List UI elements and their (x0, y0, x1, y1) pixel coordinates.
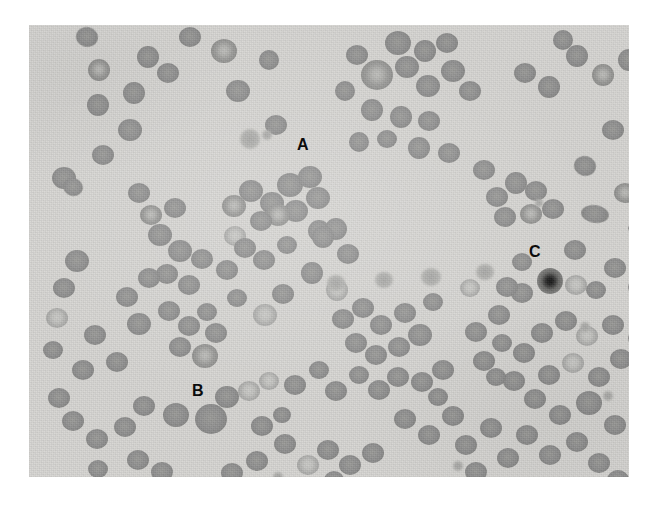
red-blood-cell (151, 462, 173, 477)
red-blood-cell (191, 249, 213, 269)
red-blood-cell (158, 301, 180, 321)
blood-smear-micrograph: ABC (29, 25, 629, 477)
red-blood-cell (377, 130, 397, 148)
red-blood-cell (317, 440, 339, 460)
red-blood-cell (88, 460, 108, 477)
red-blood-cell (253, 304, 277, 326)
red-blood-cell (234, 238, 256, 258)
red-blood-cell (346, 45, 368, 65)
red-blood-cell (339, 455, 361, 475)
plate-label-c: C (529, 244, 541, 260)
red-blood-cell (535, 199, 543, 207)
red-blood-cell (628, 220, 629, 236)
red-blood-cell (324, 471, 344, 477)
red-blood-cell (327, 275, 345, 291)
red-blood-cell (566, 432, 588, 452)
red-blood-cell (140, 205, 162, 225)
red-blood-cell (74, 25, 100, 49)
red-blood-cell (222, 195, 246, 217)
red-blood-cell (603, 391, 613, 401)
red-blood-cell (618, 49, 629, 71)
red-blood-cell (195, 404, 227, 434)
red-blood-cell (387, 367, 409, 387)
red-blood-cell (251, 416, 273, 436)
red-blood-cell (62, 411, 84, 431)
red-blood-cell (250, 211, 272, 231)
red-blood-cell (531, 323, 553, 343)
red-blood-cell (480, 418, 502, 438)
red-blood-cell (349, 132, 369, 152)
red-blood-cell (309, 361, 329, 379)
red-blood-cell (349, 366, 369, 384)
red-blood-cell (473, 160, 495, 180)
red-blood-cell (580, 322, 590, 332)
red-blood-cell (486, 368, 506, 386)
red-blood-cell (588, 453, 610, 473)
red-blood-cell (361, 99, 383, 121)
red-blood-cell (432, 360, 454, 380)
red-blood-cell (418, 425, 440, 445)
red-blood-cell (272, 284, 294, 304)
red-blood-cell (178, 316, 200, 336)
plate-label-a: A (297, 137, 309, 153)
red-blood-cell (352, 298, 374, 318)
red-blood-cell (408, 324, 432, 346)
red-blood-cell (362, 443, 384, 463)
red-blood-cell (238, 381, 260, 401)
red-blood-cell (607, 470, 629, 477)
red-blood-cell (226, 80, 250, 102)
red-blood-cell (562, 353, 584, 373)
red-blood-cell (505, 172, 527, 194)
red-blood-cell (86, 429, 108, 449)
red-blood-cell (127, 313, 151, 335)
red-blood-cell (205, 323, 227, 343)
red-blood-cell (628, 277, 629, 297)
red-blood-cell (442, 406, 464, 426)
red-blood-cell (572, 154, 598, 179)
red-blood-cell (516, 425, 538, 445)
red-blood-cell (488, 305, 510, 325)
red-blood-cell (408, 137, 430, 159)
red-blood-cell (465, 462, 487, 477)
red-blood-cell (614, 183, 629, 203)
red-blood-cell (84, 325, 106, 345)
red-blood-cell (539, 445, 561, 465)
red-blood-cell (123, 82, 145, 104)
red-blood-cell (335, 81, 355, 101)
red-blood-cell (476, 264, 494, 280)
nucleated-dark-cell (537, 268, 563, 294)
plate-label-b: B (192, 383, 204, 399)
red-blood-cell (274, 434, 296, 454)
red-blood-cell (513, 343, 535, 363)
red-blood-cell (370, 315, 392, 335)
red-blood-cell (416, 75, 440, 97)
red-blood-cell (602, 315, 624, 335)
red-blood-cell (211, 39, 237, 63)
red-blood-cell (297, 455, 319, 475)
red-blood-cell (92, 145, 114, 165)
red-blood-cell (492, 334, 512, 352)
red-blood-cell (337, 244, 359, 264)
red-blood-cell (106, 352, 128, 372)
red-blood-cell (227, 289, 247, 307)
red-blood-cell (418, 111, 440, 131)
red-blood-cell (298, 166, 322, 188)
red-blood-cell (46, 308, 68, 328)
red-blood-cell (262, 130, 272, 140)
red-blood-cell (240, 129, 260, 149)
red-blood-cell (565, 275, 587, 295)
red-blood-cell (455, 435, 477, 455)
red-blood-cell (459, 81, 481, 101)
red-blood-cell (137, 46, 159, 68)
red-blood-cell (497, 448, 519, 468)
red-blood-cell (259, 50, 279, 70)
red-blood-cell (460, 279, 480, 297)
red-blood-cell (192, 344, 218, 368)
red-blood-cell (72, 360, 94, 380)
red-blood-cell (53, 278, 75, 298)
red-blood-cell (525, 181, 547, 201)
figure-root: ABC (0, 0, 657, 506)
red-blood-cell (345, 333, 367, 353)
red-blood-cell (148, 224, 172, 246)
red-blood-cell (538, 365, 560, 385)
